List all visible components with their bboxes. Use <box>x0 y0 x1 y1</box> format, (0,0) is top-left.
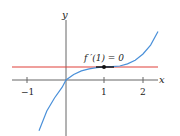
y-axis-label: y <box>61 9 68 20</box>
derivative-figure: y x −1 1 2 f ′(1) = 0 <box>0 0 180 136</box>
tick-label-2: 2 <box>140 87 146 97</box>
tangency-point <box>102 65 106 69</box>
tick-label-neg1: −1 <box>21 87 34 97</box>
tick-label-1: 1 <box>101 87 107 97</box>
annotation-label: f ′(1) = 0 <box>83 53 124 63</box>
function-curve <box>39 32 158 131</box>
x-axis-label: x <box>159 74 165 85</box>
